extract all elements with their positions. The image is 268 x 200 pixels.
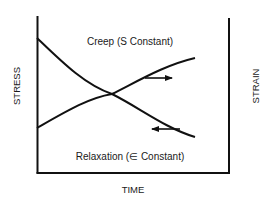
relaxation-label: Relaxation (∈ Constant): [76, 151, 185, 162]
x-axis-label: TIME: [122, 184, 145, 195]
relaxation-curve: [37, 38, 195, 137]
creep-relaxation-diagram: Creep (S Constant) Relaxation (∈ Constan…: [0, 0, 268, 200]
y-right-axis-label: STRAIN: [250, 68, 261, 103]
creep-curve: [37, 58, 195, 128]
y-left-axis-label: STRESS: [11, 67, 22, 105]
creep-label: Creep (S Constant): [87, 36, 173, 47]
